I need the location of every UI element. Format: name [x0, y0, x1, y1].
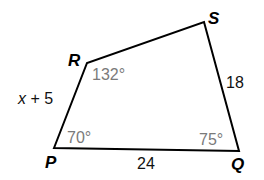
side-label-SQ: 18: [226, 74, 244, 91]
vertex-label-R: R: [68, 51, 81, 70]
angle-label-R: 132°: [92, 66, 125, 83]
vertex-label-Q: Q: [231, 155, 244, 174]
vertex-label-S: S: [208, 9, 220, 28]
side-label-PR: x + 5: [17, 90, 53, 107]
quadrilateral-diagram: R S P Q 132° 70° 75° x + 5 18 24: [0, 0, 264, 180]
angle-label-Q: 75°: [199, 131, 223, 148]
side-label-PQ: 24: [137, 155, 155, 172]
side-label-PR-rest: + 5: [26, 90, 53, 107]
angle-label-P: 70°: [67, 129, 91, 146]
vertex-label-P: P: [45, 153, 57, 172]
